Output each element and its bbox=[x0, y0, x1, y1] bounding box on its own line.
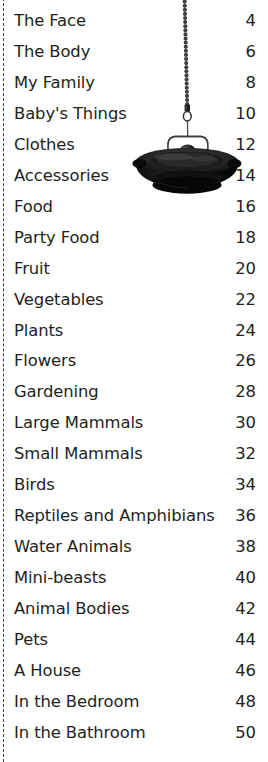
toc-row[interactable]: Party Food18 bbox=[14, 226, 256, 250]
toc-row[interactable]: Vegetables22 bbox=[14, 288, 256, 312]
toc-entry-page-number: 42 bbox=[235, 597, 256, 621]
toc-entry-page-number: 6 bbox=[246, 40, 256, 64]
toc-entry-title: Water Animals bbox=[14, 535, 132, 559]
toc-entry-page-number: 4 bbox=[246, 9, 256, 33]
toc-row[interactable]: Clothes12 bbox=[14, 133, 256, 157]
toc-entry-page-number: 24 bbox=[235, 319, 256, 343]
toc-row[interactable]: Animal Bodies42 bbox=[14, 597, 256, 621]
toc-entry-page-number: 16 bbox=[235, 195, 256, 219]
toc-entry-page-number: 22 bbox=[235, 288, 256, 312]
toc-entry-page-number: 8 bbox=[246, 71, 256, 95]
toc-row[interactable]: In the Bedroom48 bbox=[14, 690, 256, 714]
dashed-margin-rule bbox=[3, 0, 4, 762]
toc-entry-page-number: 34 bbox=[235, 473, 256, 497]
toc-row[interactable]: A House46 bbox=[14, 659, 256, 683]
toc-entry-page-number: 48 bbox=[235, 690, 256, 714]
toc-row[interactable]: In the Bathroom50 bbox=[14, 721, 256, 745]
toc-row[interactable]: The Body6 bbox=[14, 40, 256, 64]
toc-entry-title: Party Food bbox=[14, 226, 100, 250]
toc-entry-title: Plants bbox=[14, 319, 63, 343]
toc-entry-title: The Face bbox=[14, 9, 86, 33]
toc-entry-title: Vegetables bbox=[14, 288, 104, 312]
toc-row[interactable]: Birds34 bbox=[14, 473, 256, 497]
toc-entry-page-number: 38 bbox=[235, 535, 256, 559]
toc-entry-page-number: 10 bbox=[235, 102, 256, 126]
toc-entry-title: Birds bbox=[14, 473, 55, 497]
toc-entry-title: Animal Bodies bbox=[14, 597, 129, 621]
toc-row[interactable]: Food16 bbox=[14, 195, 256, 219]
toc-row[interactable]: Water Animals38 bbox=[14, 535, 256, 559]
toc-entry-page-number: 36 bbox=[235, 504, 256, 528]
toc-entry-page-number: 26 bbox=[235, 349, 256, 373]
toc-row[interactable]: My Family8 bbox=[14, 71, 256, 95]
toc-row[interactable]: Baby's Things10 bbox=[14, 102, 256, 126]
toc-entry-title: Gardening bbox=[14, 380, 99, 404]
toc-entry-title: Clothes bbox=[14, 133, 75, 157]
toc-entry-page-number: 12 bbox=[235, 133, 256, 157]
toc-entry-title: Small Mammals bbox=[14, 442, 143, 466]
toc-row[interactable]: Fruit20 bbox=[14, 257, 256, 281]
toc-entry-title: Large Mammals bbox=[14, 411, 143, 435]
toc-row[interactable]: Gardening28 bbox=[14, 380, 256, 404]
toc-entry-title: Reptiles and Amphibians bbox=[14, 504, 215, 528]
toc-entry-page-number: 46 bbox=[235, 659, 256, 683]
toc-row[interactable]: Pets44 bbox=[14, 628, 256, 652]
toc-row[interactable]: The Face4 bbox=[14, 9, 256, 33]
toc-entry-page-number: 18 bbox=[235, 226, 256, 250]
toc-entry-page-number: 44 bbox=[235, 628, 256, 652]
toc-entry-title: A House bbox=[14, 659, 81, 683]
toc-entry-page-number: 28 bbox=[235, 380, 256, 404]
toc-row[interactable]: Large Mammals30 bbox=[14, 411, 256, 435]
toc-entry-page-number: 50 bbox=[235, 721, 256, 745]
toc-entry-page-number: 40 bbox=[235, 566, 256, 590]
toc-entry-title: Mini-beasts bbox=[14, 566, 107, 590]
toc-entry-title: Accessories bbox=[14, 164, 109, 188]
toc-entry-title: The Body bbox=[14, 40, 90, 64]
toc-entry-page-number: 32 bbox=[235, 442, 256, 466]
toc-entry-title: Fruit bbox=[14, 257, 50, 281]
toc-row[interactable]: Accessories14 bbox=[14, 164, 256, 188]
toc-entry-title: Flowers bbox=[14, 349, 76, 373]
toc-entry-title: Baby's Things bbox=[14, 102, 127, 126]
toc-row[interactable]: Mini-beasts40 bbox=[14, 566, 256, 590]
toc-entry-title: In the Bedroom bbox=[14, 690, 139, 714]
toc-entry-page-number: 20 bbox=[235, 257, 256, 281]
toc-entry-title: In the Bathroom bbox=[14, 721, 146, 745]
toc-row[interactable]: Flowers26 bbox=[14, 349, 256, 373]
toc-entry-title: Pets bbox=[14, 628, 48, 652]
toc-row[interactable]: Small Mammals32 bbox=[14, 442, 256, 466]
toc-entry-page-number: 14 bbox=[235, 164, 256, 188]
toc-row[interactable]: Plants24 bbox=[14, 319, 256, 343]
toc-entry-title: My Family bbox=[14, 71, 95, 95]
toc-row[interactable]: Reptiles and Amphibians36 bbox=[14, 504, 256, 528]
toc-entry-page-number: 30 bbox=[235, 411, 256, 435]
toc-entry-title: Food bbox=[14, 195, 53, 219]
